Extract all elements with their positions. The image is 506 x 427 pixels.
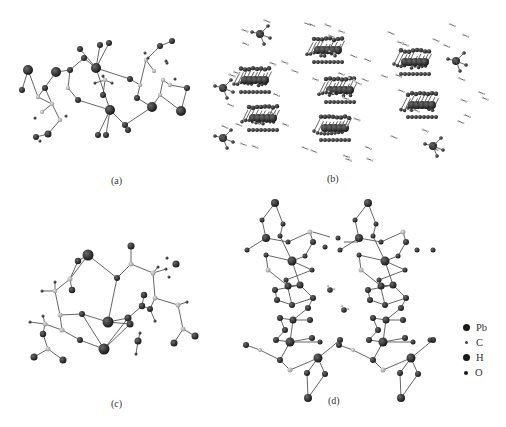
o-atom xyxy=(324,36,328,40)
o-atom xyxy=(312,129,316,133)
c-atom xyxy=(281,60,283,62)
o-atom xyxy=(414,92,418,96)
o-atom xyxy=(426,115,430,119)
panel-c-asymmetric-unit xyxy=(0,200,230,390)
o-atom xyxy=(392,62,396,66)
o-atom xyxy=(106,40,112,46)
o-atom xyxy=(406,92,410,96)
o-atom xyxy=(332,77,336,81)
bond xyxy=(140,60,146,85)
o-atom xyxy=(320,37,324,41)
o-atom xyxy=(271,105,275,109)
o-atom xyxy=(397,370,403,376)
c-atom xyxy=(369,60,371,62)
o-atom xyxy=(328,76,332,80)
o-atom xyxy=(336,100,340,104)
bond xyxy=(38,97,52,104)
o-atom xyxy=(135,338,142,345)
o-atom xyxy=(446,57,450,61)
o-atom xyxy=(231,140,235,144)
o-atom xyxy=(259,105,263,109)
c-atom xyxy=(333,288,335,290)
c-atom xyxy=(343,74,345,76)
o-atom xyxy=(263,67,267,71)
legend-label-h: H xyxy=(476,352,484,363)
c-atom xyxy=(457,120,459,122)
o-atom xyxy=(431,109,435,113)
o-atom xyxy=(377,278,382,283)
c-atom xyxy=(458,77,460,79)
o-atom xyxy=(406,115,410,119)
o-atom-icon xyxy=(464,371,468,375)
c-atom xyxy=(247,44,249,46)
c-atom xyxy=(233,71,235,73)
o-atom xyxy=(245,248,250,253)
o-atom xyxy=(403,295,409,301)
h-atom xyxy=(157,266,160,269)
o-atom xyxy=(371,234,376,239)
c-atom xyxy=(353,79,355,81)
c-atom xyxy=(407,45,409,47)
bond xyxy=(78,100,110,110)
o-atom xyxy=(232,82,236,86)
o-atom xyxy=(268,36,272,40)
o-atom xyxy=(426,92,430,96)
c-atom xyxy=(347,98,349,100)
o-atom xyxy=(297,282,304,289)
bond xyxy=(401,374,418,398)
c-atom xyxy=(43,322,48,327)
o-atom xyxy=(100,92,106,98)
bond xyxy=(381,232,403,242)
o-atom xyxy=(319,54,323,58)
c-atom xyxy=(345,158,347,160)
o-atom xyxy=(192,333,199,340)
o-atom xyxy=(277,357,283,363)
c-atom xyxy=(317,79,319,81)
o-atom xyxy=(310,239,316,245)
c-atom xyxy=(40,110,44,114)
o-atom xyxy=(434,115,438,119)
o-atom xyxy=(328,60,332,64)
o-atom xyxy=(266,24,270,28)
c-atom xyxy=(310,149,312,151)
c-atom xyxy=(263,19,265,21)
o-atom xyxy=(251,90,255,94)
c-atom xyxy=(269,61,271,63)
bond xyxy=(82,314,104,349)
o-atom xyxy=(60,357,67,364)
o-atom xyxy=(267,90,271,94)
c-atom xyxy=(364,58,366,60)
o-atom xyxy=(307,317,313,323)
o-atom xyxy=(141,292,147,298)
c-atom xyxy=(301,146,303,148)
c-atom xyxy=(427,130,429,132)
h-atom xyxy=(65,115,68,118)
o-atom xyxy=(281,222,286,227)
bond xyxy=(379,270,405,280)
c-atom xyxy=(233,75,235,77)
o-atom xyxy=(324,60,328,64)
c-atom xyxy=(308,23,310,25)
c-atom xyxy=(338,29,340,31)
o-atom xyxy=(415,72,419,76)
pb-atom xyxy=(381,257,390,266)
o-atom xyxy=(326,132,330,136)
o-atom xyxy=(125,127,131,133)
o-atom xyxy=(336,37,340,41)
c-atom xyxy=(482,97,484,99)
c-atom xyxy=(256,147,258,149)
panel-a-molecule xyxy=(0,0,200,170)
o-atom xyxy=(225,96,229,100)
o-atom xyxy=(398,305,404,311)
c-atom xyxy=(268,21,270,23)
o-atom xyxy=(355,234,363,242)
o-atom xyxy=(251,105,255,109)
c-atom xyxy=(253,121,255,123)
c-atom xyxy=(227,103,229,105)
c-atom xyxy=(347,308,349,310)
h-atom xyxy=(94,82,97,85)
o-atom xyxy=(428,101,436,109)
h-atom xyxy=(168,276,171,279)
c-atom xyxy=(241,28,243,30)
o-atom xyxy=(304,394,312,402)
